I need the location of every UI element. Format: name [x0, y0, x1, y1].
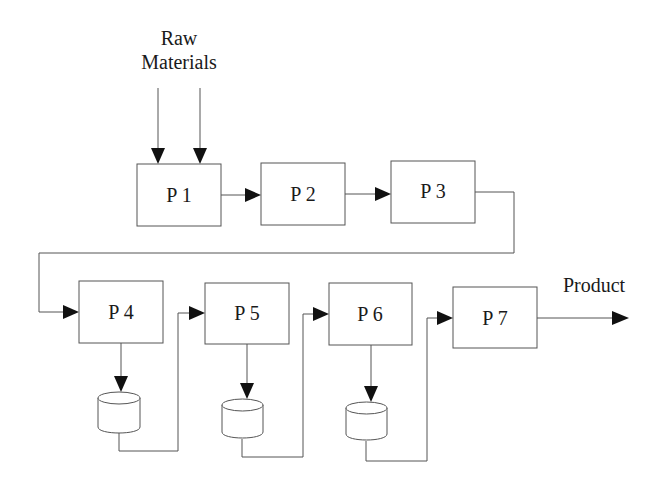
- arrow-p4-to-storage: [114, 343, 128, 392]
- process-box-p7: P 7: [453, 287, 537, 348]
- storage-cylinder-p4: [98, 392, 140, 433]
- process-box-p6: P 6: [329, 283, 412, 345]
- process-label-p1: P 1: [166, 184, 191, 206]
- process-label-p7: P 7: [482, 307, 507, 329]
- process-label-p2: P 2: [290, 183, 315, 205]
- raw-materials-label-line2: Materials: [141, 51, 217, 73]
- raw-material-arrow-1: [151, 88, 165, 164]
- process-box-p2: P 2: [261, 163, 345, 225]
- process-box-p3: P 3: [391, 161, 475, 223]
- process-label-p6: P 6: [357, 303, 382, 325]
- process-label-p4: P 4: [108, 301, 133, 323]
- arrow-p7-to-product: [537, 311, 629, 325]
- storage-cylinder-p5: [222, 399, 263, 438]
- raw-material-arrow-2: [193, 88, 207, 164]
- process-box-p1: P 1: [137, 164, 221, 226]
- process-box-p4: P 4: [79, 281, 163, 343]
- product-label: Product: [563, 274, 626, 296]
- process-box-p5: P 5: [205, 283, 289, 344]
- arrow-p2-to-p3: [345, 187, 391, 201]
- storage-cylinder-p6: [346, 402, 387, 440]
- process-label-p3: P 3: [420, 180, 445, 202]
- process-label-p5: P 5: [234, 302, 259, 324]
- arrow-p5-to-storage: [240, 344, 254, 399]
- raw-materials-label-line1: Raw: [161, 27, 198, 49]
- arrow-p1-to-p2: [221, 188, 261, 202]
- arrow-p6-to-storage: [364, 345, 378, 402]
- process-flow-diagram: Raw Materials P 1 P 2 P 3 P 4: [0, 0, 663, 495]
